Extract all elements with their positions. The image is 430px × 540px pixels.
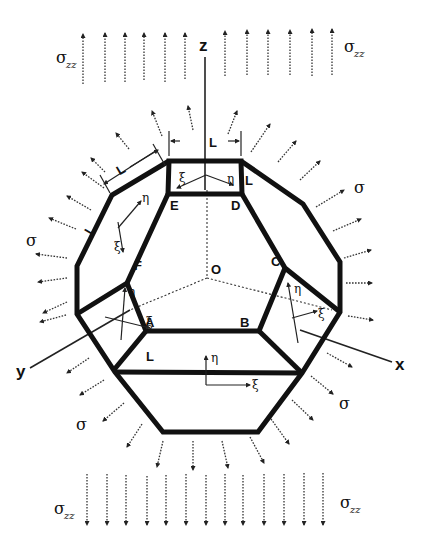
top-stress-arrows (83, 29, 332, 84)
polyhedron-edges (77, 161, 340, 432)
bottom-stress-arrows (87, 473, 323, 525)
axis-y-label: y (16, 362, 26, 381)
eta-upper-left-label: η (142, 191, 149, 205)
sigma-zz-bottom-left-label: σ zz (54, 499, 75, 521)
vertex-B-label: B (240, 315, 249, 330)
vertex-C-label: C (271, 254, 281, 269)
vertex-D-label: D (231, 198, 240, 213)
dimension-L-top: L (209, 135, 217, 150)
tetrakaidecahedron-diagram: σ zz σ zz σ zz σ zz (0, 0, 430, 540)
xi-front-label: ξ (252, 378, 259, 392)
dimension-L-lower: L (146, 349, 154, 364)
origin-label: O (211, 262, 221, 277)
xi-top-label: ξ (179, 171, 186, 185)
dimension-L-right: L (245, 173, 253, 188)
svg-text:zz: zz (65, 59, 77, 70)
xi-right-square-label: ξ (318, 307, 325, 321)
sigma-right-upper-label: σ (354, 178, 365, 197)
xi-upper-left-label: ξ (114, 240, 121, 254)
sigma-zz-top-left-label: σ zz (56, 48, 77, 70)
eta-right-square-label: η (294, 282, 301, 296)
local-axes-upper-left (118, 201, 141, 252)
vertex-F-label: F (134, 258, 142, 273)
eta-left-square-label: η (128, 285, 135, 299)
axis-z-label: z (199, 36, 208, 55)
sigma-right-lower-label: σ (339, 394, 350, 413)
axis-x-label: x (395, 355, 405, 374)
eta-top-label: η (227, 172, 234, 186)
sigma-zz-bottom-right-label: σ zz (340, 493, 361, 515)
xi-left-square-label: ξ (146, 315, 153, 329)
eta-front-label: η (211, 351, 218, 365)
sigma-left-lower-label: σ (76, 415, 87, 434)
svg-text:zz: zz (349, 504, 361, 515)
svg-text:zz: zz (63, 510, 75, 521)
sigma-zz-top-right-label: σ zz (344, 37, 365, 59)
vertex-E-label: E (170, 198, 179, 213)
sigma-left-label: σ (26, 231, 37, 250)
svg-text:zz: zz (353, 48, 365, 59)
